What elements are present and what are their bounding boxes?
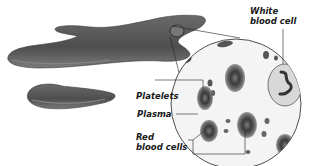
platelet — [265, 118, 270, 124]
platelet — [224, 129, 229, 133]
label-line: Red — [136, 132, 187, 142]
red-blood-cell — [200, 120, 218, 142]
label-white-blood-cell: White blood cell — [250, 6, 296, 26]
platelet — [274, 56, 278, 61]
platelet — [246, 150, 251, 154]
label-red-blood-cells: Red blood cells — [136, 132, 187, 152]
label-platelets: Platelets — [136, 91, 179, 101]
platelet — [226, 119, 231, 123]
red-blood-cell — [225, 64, 245, 92]
platelet — [263, 51, 269, 59]
platelet — [211, 90, 215, 96]
label-plasma: Plasma — [137, 109, 172, 119]
blood-vessel-small — [27, 84, 115, 109]
label-line: blood cells — [136, 142, 187, 152]
platelet — [262, 131, 267, 137]
red-blood-cell — [237, 112, 257, 138]
white-blood-cell — [268, 64, 302, 106]
red-blood-cell — [197, 86, 213, 110]
label-line: blood cell — [250, 16, 296, 26]
red-blood-cell — [276, 134, 294, 156]
label-line: White — [250, 6, 296, 16]
platelet — [208, 80, 213, 87]
